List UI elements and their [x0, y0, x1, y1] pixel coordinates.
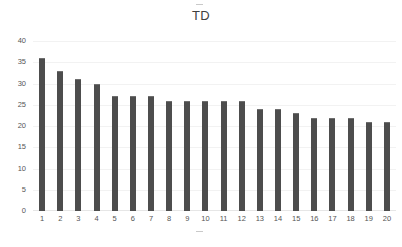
x-tick-label: 9	[179, 214, 195, 224]
x-tick-label: 1	[34, 214, 50, 224]
bar[interactable]	[366, 122, 372, 211]
x-axis: 1234567891011121314151617181920	[33, 214, 396, 228]
bar[interactable]	[311, 118, 317, 212]
title-dash-artifact	[196, 4, 203, 5]
y-tick-label: 15	[18, 143, 26, 151]
bar[interactable]	[75, 79, 81, 211]
bar[interactable]	[293, 113, 299, 211]
gridline	[33, 105, 396, 106]
x-tick-label: 15	[288, 214, 304, 224]
bar-chart: TD 0510152025303540 12345678910111213141…	[0, 0, 402, 247]
plot-area	[33, 41, 396, 211]
chart-title: TD	[0, 8, 402, 23]
bar[interactable]	[221, 101, 227, 212]
bar[interactable]	[239, 101, 245, 212]
x-tick-label: 8	[161, 214, 177, 224]
bar[interactable]	[257, 109, 263, 211]
x-tick-label: 2	[52, 214, 68, 224]
bar[interactable]	[57, 71, 63, 211]
bar[interactable]	[384, 122, 390, 211]
x-tick-label: 14	[270, 214, 286, 224]
gridline	[33, 147, 396, 148]
x-tick-label: 20	[379, 214, 395, 224]
x-tick-label: 16	[306, 214, 322, 224]
x-axis-dash-artifact	[196, 231, 203, 232]
y-tick-label: 0	[22, 207, 26, 215]
gridline	[33, 169, 396, 170]
gridline	[33, 126, 396, 127]
x-tick-label: 4	[89, 214, 105, 224]
bar[interactable]	[130, 96, 136, 211]
bar[interactable]	[39, 58, 45, 211]
y-tick-label: 40	[18, 37, 26, 45]
y-tick-label: 10	[18, 165, 26, 173]
x-tick-label: 17	[324, 214, 340, 224]
x-tick-label: 13	[252, 214, 268, 224]
bar[interactable]	[348, 118, 354, 212]
y-tick-label: 5	[22, 186, 26, 194]
y-axis: 0510152025303540	[0, 41, 30, 211]
y-tick-label: 35	[18, 58, 26, 66]
x-tick-label: 7	[143, 214, 159, 224]
bar[interactable]	[148, 96, 154, 211]
gridline	[33, 41, 396, 42]
gridline	[33, 84, 396, 85]
y-tick-label: 20	[18, 122, 26, 130]
x-tick-label: 12	[234, 214, 250, 224]
x-tick-label: 18	[343, 214, 359, 224]
x-tick-label: 10	[197, 214, 213, 224]
bar[interactable]	[184, 101, 190, 212]
gridline	[33, 62, 396, 63]
bar[interactable]	[275, 109, 281, 211]
bar[interactable]	[94, 84, 100, 212]
x-tick-label: 5	[107, 214, 123, 224]
x-tick-label: 19	[361, 214, 377, 224]
x-tick-label: 6	[125, 214, 141, 224]
bar[interactable]	[166, 101, 172, 212]
x-tick-label: 3	[70, 214, 86, 224]
x-tick-label: 11	[216, 214, 232, 224]
bar[interactable]	[329, 118, 335, 212]
gridline	[33, 190, 396, 191]
bar[interactable]	[112, 96, 118, 211]
y-tick-label: 30	[18, 80, 26, 88]
x-axis-baseline	[33, 210, 396, 211]
bar[interactable]	[202, 101, 208, 212]
y-tick-label: 25	[18, 101, 26, 109]
